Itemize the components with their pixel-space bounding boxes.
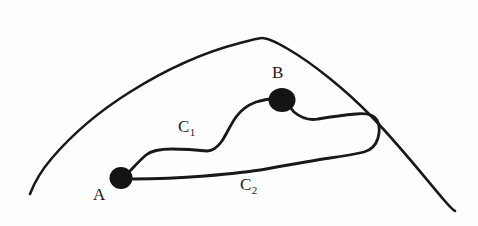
point-b-node [269,88,296,112]
figure-canvas: A B C1 C2 [0,0,478,226]
curve-c1-label-base: C [178,117,189,136]
curve-c2-label-subscript: 2 [252,184,258,196]
diagram-svg [0,0,478,226]
point-a-node [110,167,133,189]
point-a-label: A [93,186,105,203]
curve-c1-label-subscript: 1 [190,126,196,138]
curve-c2-label: C2 [240,176,257,193]
curve-c2-label-base: C [240,175,251,194]
point-b-label: B [272,64,283,81]
curve-c1-label: C1 [178,118,195,135]
